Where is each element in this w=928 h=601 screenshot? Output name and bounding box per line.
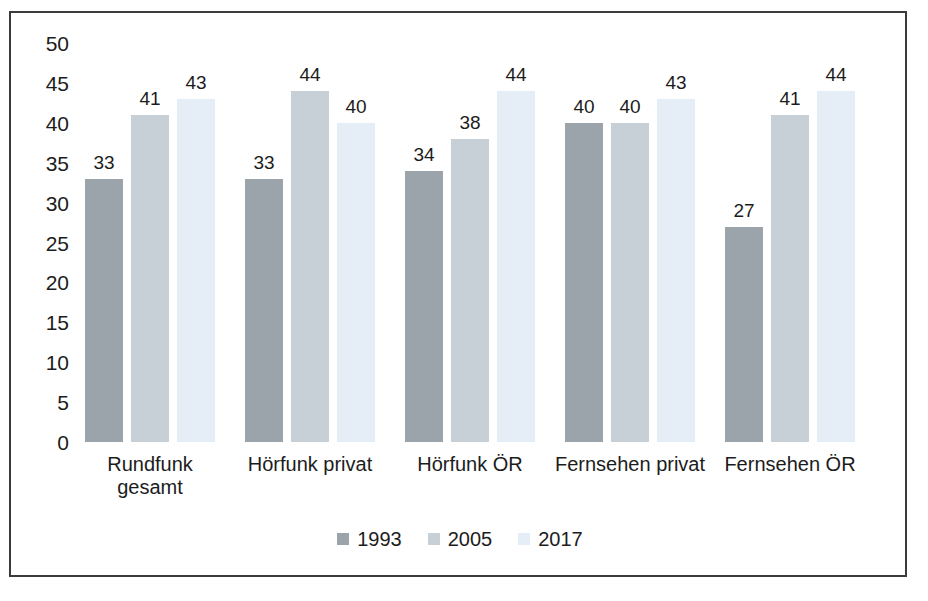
y-axis-tick-label: 25 <box>25 232 69 253</box>
bar-value-label: 43 <box>170 73 222 92</box>
bars-region: 334143Rundfunk gesamt334440Hörfunk priva… <box>79 13 899 579</box>
bar-group: 404043 <box>565 13 695 579</box>
bar-group: 343844 <box>405 13 535 579</box>
legend-label: 2017 <box>538 529 583 549</box>
chart-figure-frame: 50454035302520151050 334143Rundfunk gesa… <box>9 11 907 577</box>
x-axis-category-label: Hörfunk ÖR <box>385 453 555 476</box>
bar <box>771 115 809 442</box>
bar <box>611 123 649 442</box>
y-axis: 50454035302520151050 <box>25 13 69 579</box>
y-axis-tick-label: 45 <box>25 72 69 93</box>
bar-value-label: 40 <box>558 97 610 116</box>
y-axis-tick-label: 30 <box>25 192 69 213</box>
bar <box>497 91 535 442</box>
bar <box>177 99 215 442</box>
bar-value-label: 44 <box>810 65 862 84</box>
bar-value-label: 27 <box>718 201 770 220</box>
y-axis-tick-label: 35 <box>25 152 69 173</box>
bar <box>245 179 283 442</box>
bar <box>657 99 695 442</box>
legend-label: 1993 <box>357 529 402 549</box>
bar-value-label: 41 <box>764 89 816 108</box>
bar-value-label: 43 <box>650 73 702 92</box>
bar-group: 274144 <box>725 13 855 579</box>
y-axis-tick-label: 20 <box>25 272 69 293</box>
bar <box>405 171 443 442</box>
legend-swatch-icon <box>518 533 530 545</box>
x-axis-category-label: Rundfunk gesamt <box>65 453 235 499</box>
y-axis-tick-label: 40 <box>25 112 69 133</box>
bar <box>565 123 603 442</box>
bar-value-label: 40 <box>330 97 382 116</box>
y-axis-tick-label: 15 <box>25 312 69 333</box>
bar <box>337 123 375 442</box>
bar <box>725 227 763 442</box>
bar-value-label: 44 <box>490 65 542 84</box>
bar-value-label: 34 <box>398 145 450 164</box>
x-axis-category-label: Fernsehen privat <box>545 453 715 476</box>
bar-group: 334440 <box>245 13 375 579</box>
legend-item[interactable]: 1993 <box>337 529 402 549</box>
legend-item[interactable]: 2017 <box>518 529 583 549</box>
y-axis-tick-label: 50 <box>25 33 69 54</box>
legend-swatch-icon <box>428 533 440 545</box>
y-axis-tick-label: 0 <box>25 432 69 453</box>
bar <box>85 179 123 442</box>
bar-value-label: 33 <box>78 153 130 172</box>
bar-value-label: 38 <box>444 113 496 132</box>
bar <box>291 91 329 442</box>
bar-value-label: 33 <box>238 153 290 172</box>
chart-legend: 199320052017 <box>11 529 909 549</box>
legend-label: 2005 <box>448 529 493 549</box>
bar-value-label: 44 <box>284 65 336 84</box>
y-axis-tick-label: 10 <box>25 352 69 373</box>
x-axis-category-label: Hörfunk privat <box>225 453 395 476</box>
plot-area: 50454035302520151050 334143Rundfunk gesa… <box>11 13 909 579</box>
y-axis-tick-label: 5 <box>25 392 69 413</box>
legend-swatch-icon <box>337 533 349 545</box>
bar <box>817 91 855 442</box>
legend-item[interactable]: 2005 <box>428 529 493 549</box>
bar-value-label: 40 <box>604 97 656 116</box>
bar <box>451 139 489 442</box>
bar-value-label: 41 <box>124 89 176 108</box>
x-axis-category-label: Fernsehen ÖR <box>705 453 875 476</box>
bar <box>131 115 169 442</box>
